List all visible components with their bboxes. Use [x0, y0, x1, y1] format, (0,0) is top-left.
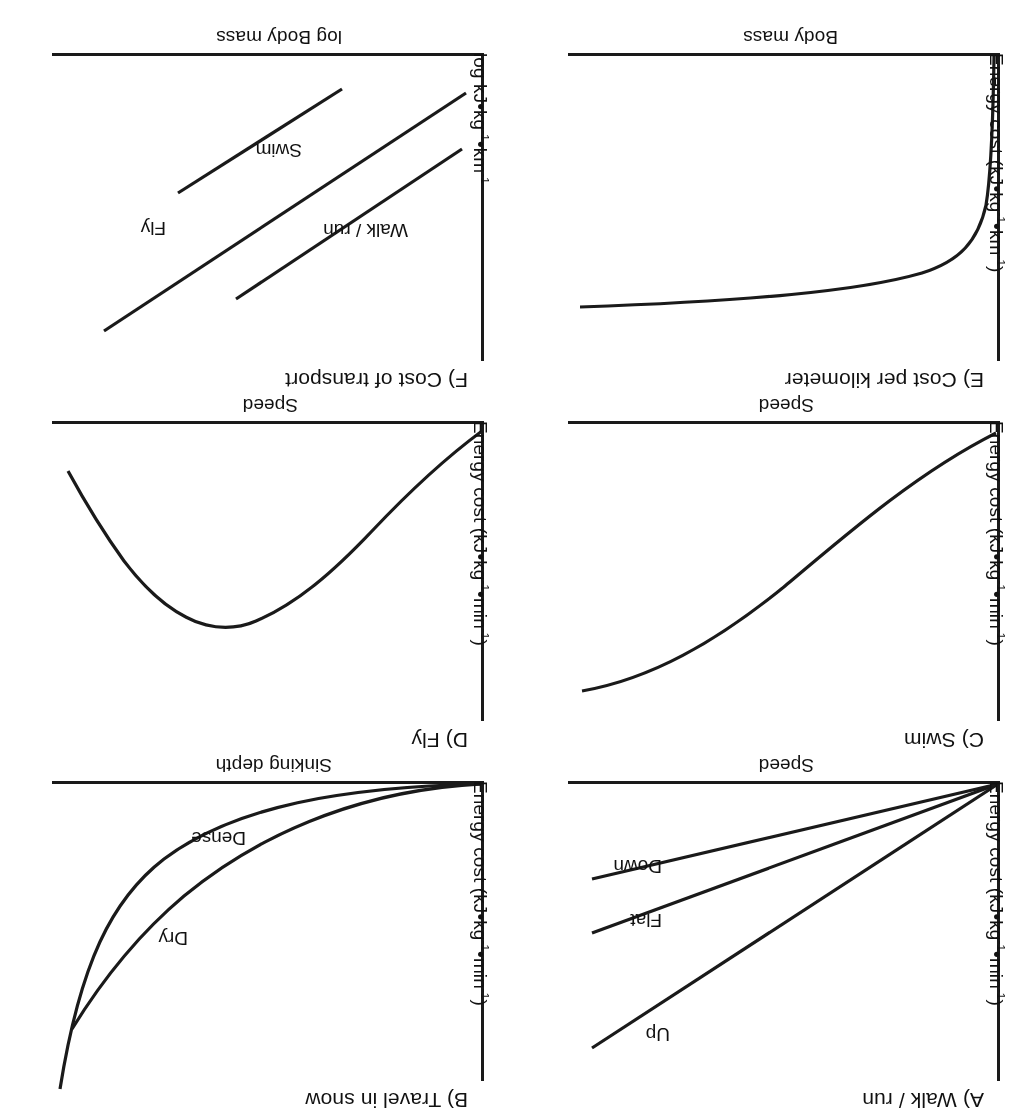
- panel-f-x-axis: [52, 53, 484, 56]
- panel-d-y-axis-label-text: Energy cost (kJ•kg-1•min-1): [470, 421, 491, 646]
- panel-a: Up Flat Down Energy cost (kJ•kg-1•min-1)…: [540, 761, 1000, 1081]
- panel-f-line-fly: [104, 93, 466, 331]
- panel-e-title: E) Cost per kilometer: [785, 369, 984, 391]
- panel-c-series-group: [568, 421, 1000, 721]
- panel-f-svg: [52, 53, 484, 361]
- panel-d: Energy cost (kJ•kg-1•min-1) Speed D) Fly: [24, 401, 484, 721]
- panel-b-series-label-dense: Dense: [191, 827, 246, 849]
- panel-d-curve-fly: [68, 431, 482, 627]
- panel-f-series-label-fly: Fly: [141, 217, 166, 239]
- panel-d-series-group: [52, 421, 484, 721]
- panel-e-plot-frame: [568, 53, 1000, 361]
- panel-a-series-label-down: Down: [613, 855, 662, 877]
- panel-a-plot-frame: Up Flat Down: [568, 781, 1000, 1081]
- panel-a-x-axis-label: Speed: [759, 755, 814, 775]
- panel-b-series-group: [52, 781, 484, 1081]
- panel-e-y-axis-label-text: Energy cost (kJ•kg-1•km-1): [986, 53, 1007, 273]
- panel-a-x-axis: [568, 781, 1000, 784]
- panel-a-y-axis-label: Energy cost (kJ•kg-1•min-1): [986, 781, 1006, 1006]
- panel-b-y-axis-label: Energy cost (kJ•kg-1•min-1): [470, 781, 490, 1006]
- panel-b-x-axis-label: Sinking depth: [216, 755, 332, 775]
- panel-e-y-axis-label: Energy cost (kJ•kg-1•km-1): [986, 53, 1006, 273]
- panel-b-series-label-dry: Dry: [158, 927, 188, 949]
- panel-a-svg: [568, 781, 1000, 1081]
- panel-a-series-label-flat: Flat: [630, 909, 662, 931]
- panel-c: Energy cost (kJ•kg-1•min-1) Speed C) Swi…: [540, 401, 1000, 721]
- panel-e-curve-cost-per-km: [580, 56, 994, 307]
- panel-f-y-axis-label-text: log kJ•kg-1•km-1: [470, 53, 491, 184]
- panel-e-x-axis: [568, 53, 1000, 56]
- panel-d-y-axis-label: Energy cost (kJ•kg-1•min-1): [470, 421, 490, 646]
- panel-a-series-group: [568, 781, 1000, 1081]
- panel-c-curve-swim: [582, 433, 996, 691]
- panel-e-svg: [568, 53, 1000, 361]
- panel-c-y-axis-label: Energy cost (kJ•kg-1•min-1): [986, 421, 1006, 646]
- panel-a-y-axis-label-text: Energy cost (kJ•kg-1•min-1): [986, 781, 1007, 1006]
- panel-b-svg: [52, 781, 484, 1081]
- panel-f: Walk / run Swim Fly log kJ•kg-1•km-1 log…: [24, 31, 484, 361]
- panel-e-x-axis-label: Body mass: [743, 27, 838, 47]
- panel-a-series-label-up: Up: [646, 1023, 670, 1045]
- panel-f-x-axis-label: log Body mass: [216, 27, 342, 47]
- panel-b-curve-dry: [72, 784, 482, 1029]
- panel-f-plot-frame: Walk / run Swim Fly: [52, 53, 484, 361]
- panel-f-series-label-swim: Swim: [256, 139, 302, 161]
- panel-a-title: A) Walk / run: [862, 1089, 984, 1111]
- panel-d-x-axis: [52, 421, 484, 424]
- panel-f-title: F) Cost of transport: [285, 369, 468, 391]
- panel-c-plot-frame: [568, 421, 1000, 721]
- panel-b-y-axis-label-text: Energy cost (kJ•kg-1•min-1): [470, 781, 491, 1006]
- panel-c-svg: [568, 421, 1000, 721]
- panel-e-series-group: [568, 53, 1000, 361]
- panel-d-title: D) Fly: [411, 729, 468, 751]
- panel-f-series-label-walk-run: Walk / run: [323, 219, 408, 241]
- panel-f-series-group: [52, 53, 484, 361]
- panel-e: Energy cost (kJ•kg-1•km-1) Body mass E) …: [540, 31, 1000, 361]
- panel-b-x-axis: [52, 781, 484, 784]
- panel-b-curve-dense: [60, 784, 482, 1089]
- panel-b-title: B) Travel in snow: [305, 1089, 468, 1111]
- panel-f-y-axis-label: log kJ•kg-1•km-1: [470, 53, 490, 184]
- panel-c-x-axis: [568, 421, 1000, 424]
- panel-d-x-axis-label: Speed: [243, 395, 298, 415]
- panel-c-y-axis-label-text: Energy cost (kJ•kg-1•min-1): [986, 421, 1007, 646]
- panel-c-title: C) Swim: [904, 729, 984, 751]
- panel-c-x-axis-label: Speed: [759, 395, 814, 415]
- panel-d-svg: [52, 421, 484, 721]
- panel-b: Dry Dense Energy cost (kJ•kg-1•min-1) Si…: [24, 761, 484, 1081]
- panel-d-plot-frame: [52, 421, 484, 721]
- panel-b-plot-frame: Dry Dense: [52, 781, 484, 1081]
